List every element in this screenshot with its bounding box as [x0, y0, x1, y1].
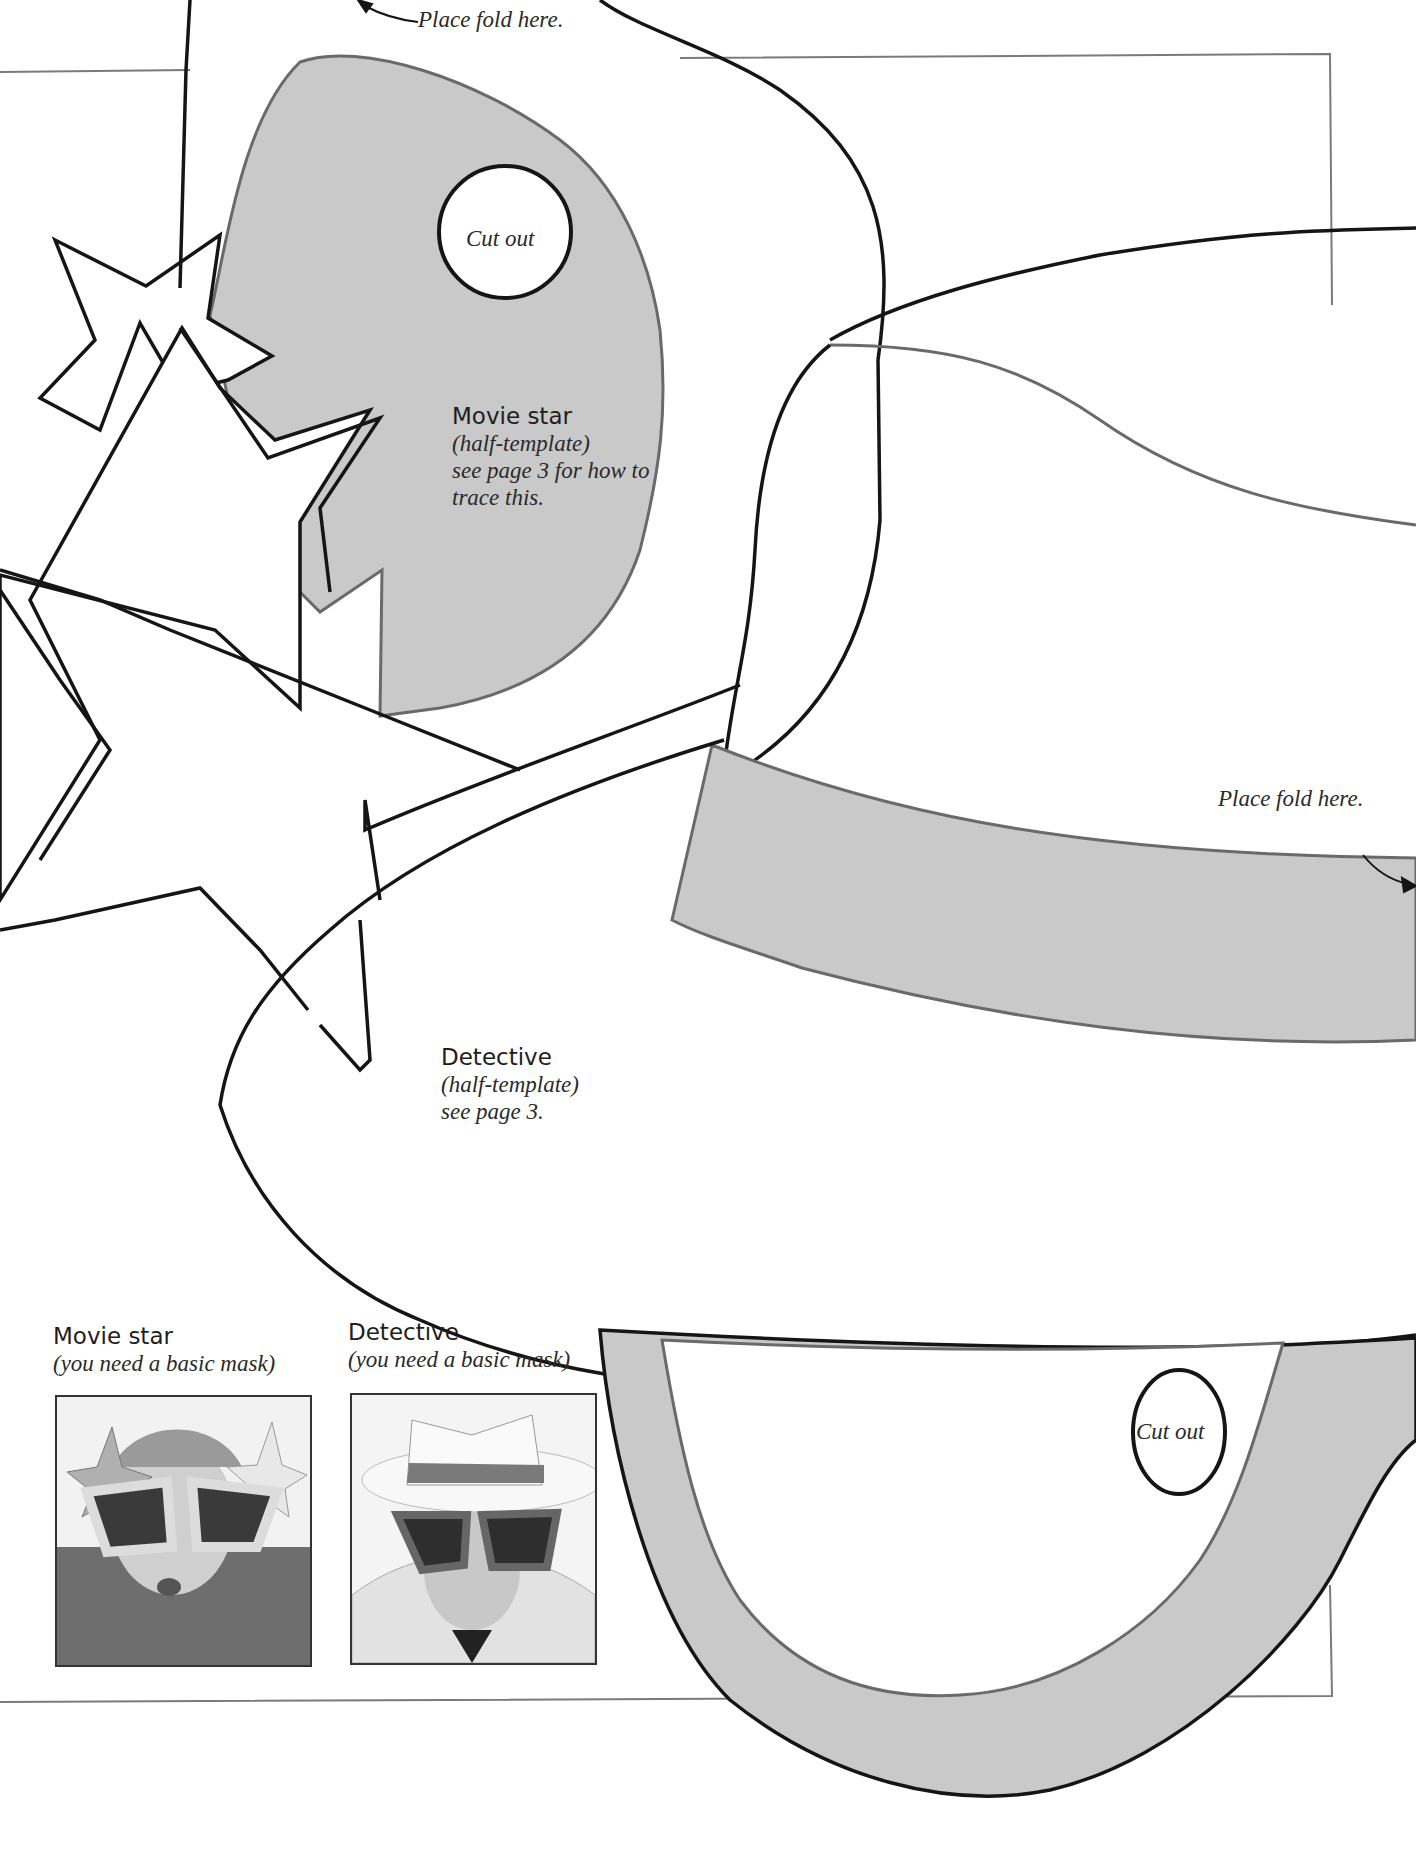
detective-template-title: Detective	[441, 1043, 579, 1071]
detective-mask-photo	[350, 1393, 597, 1665]
detective-template-line1: (half-template)	[441, 1071, 579, 1098]
movie-star-template-line3: trace this.	[452, 484, 649, 511]
movie-star-template-label: Movie star (half-template) see page 3 fo…	[452, 402, 649, 511]
fold-label-right: Place fold here.	[1218, 785, 1363, 812]
hat-crown-top	[830, 228, 1416, 340]
example-title-movie-star: Movie star	[53, 1322, 275, 1350]
hat-left-edge	[725, 345, 830, 760]
example-caption-movie-star: Movie star (you need a basic mask)	[53, 1322, 275, 1377]
detective-template-label: Detective (half-template) see page 3.	[441, 1043, 579, 1125]
example-note-detective: (you need a basic mask)	[348, 1346, 570, 1373]
detective-photo-illustration	[352, 1395, 595, 1663]
fold-label-top: Place fold here.	[418, 6, 563, 33]
movie-star-template-title: Movie star	[452, 402, 649, 430]
movie-star-template-line1: (half-template)	[452, 430, 649, 457]
movie-star-mask-photo	[55, 1395, 312, 1667]
cutout-label-movie-star: Cut out	[466, 225, 534, 252]
hat-crown-lower	[830, 345, 1416, 525]
example-note-movie-star: (you need a basic mask)	[53, 1350, 275, 1377]
example-title-detective: Detective	[348, 1318, 570, 1346]
detective-template-line2: see page 3.	[441, 1098, 579, 1125]
cutout-label-detective: Cut out	[1136, 1418, 1204, 1445]
movie-star-photo-illustration	[57, 1397, 310, 1665]
movie-star-template-line2: see page 3 for how to	[452, 457, 649, 484]
fold-line-left	[180, 0, 190, 288]
example-caption-detective: Detective (you need a basic mask)	[348, 1318, 570, 1373]
